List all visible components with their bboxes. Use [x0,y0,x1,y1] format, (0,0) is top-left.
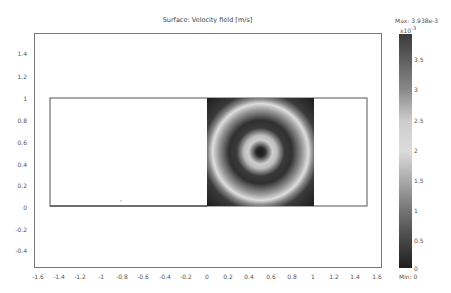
y-tick: 0.4 [17,161,27,168]
x-tick: -0.6 [137,273,149,280]
y-tick: -0.4 [15,247,27,254]
y-tick: 0.6 [17,139,27,146]
x-tick: -1.6 [32,273,44,280]
colorbar-tick: 0.5 [414,237,424,244]
y-tick: 0.8 [17,117,27,124]
colorbar-exponent: x10-3 [400,25,416,34]
colorbar-tick: 2 [414,147,418,154]
x-tick: -0.2 [180,273,192,280]
x-tick: 0 [205,273,209,280]
x-tick: 0.4 [244,273,254,280]
plot-area [0,0,451,293]
y-tick: 1.2 [17,73,27,80]
x-tick: 1 [311,273,315,280]
colorbar-exponent-power: -3 [411,25,416,31]
y-tick: -0.2 [15,226,27,233]
y-tick: 1 [23,95,27,102]
x-tick: -1 [98,273,104,280]
x-tick: -1.4 [53,273,65,280]
colorbar-max-label: Max: 3.938e-3 [395,17,438,24]
x-tick: 1.4 [350,273,360,280]
x-tick: 1.6 [372,273,382,280]
colorbar-tick: 1 [414,207,418,214]
x-tick: -0.8 [116,273,128,280]
colorbar-tick: 3.5 [414,56,424,63]
colorbar-tick: 1.5 [414,177,424,184]
colorbar-min-label: Min: 0 [399,273,417,280]
colorbar-exponent-base: x10 [400,27,411,34]
x-tick: 1.2 [329,273,339,280]
x-tick: 0.8 [287,273,297,280]
x-tick: -1.2 [74,273,86,280]
colorbar [399,34,412,268]
y-tick: 1.4 [17,50,27,57]
colorbar-tick: 0 [414,265,418,272]
x-tick: 0.2 [223,273,233,280]
y-tick: 0.2 [17,182,27,189]
x-tick: 0.6 [266,273,276,280]
x-tick: -0.4 [159,273,171,280]
colorbar-tick: 2.5 [414,117,424,124]
colorbar-tick: 3 [414,86,418,93]
velocity-field-region [207,98,314,206]
y-tick: 0 [23,204,27,211]
